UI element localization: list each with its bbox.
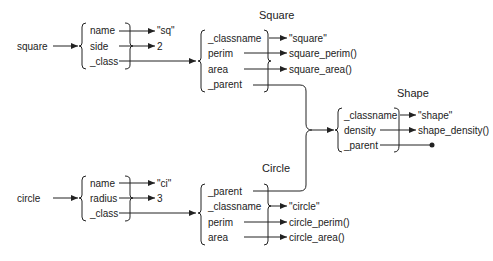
circle-name-value: "ci" <box>157 178 172 189</box>
square-name-value: "sq" <box>157 25 175 36</box>
shape-class-field-classname: _classname <box>343 110 398 121</box>
square-class-right-brace <box>264 30 271 92</box>
square-variable-label: square <box>17 41 48 52</box>
square-class-field-area: area <box>208 64 228 75</box>
null-terminator-dot <box>430 143 435 148</box>
circle-class-field-parent: _parent <box>207 186 242 197</box>
circle-left-brace <box>79 176 86 221</box>
square-class-field-classname: _classname <box>207 33 262 44</box>
square-field-side: side <box>90 41 109 52</box>
shape-class-field-density: density <box>344 125 376 136</box>
square-field-name: name <box>90 25 115 36</box>
circle-class-field-perim: perim <box>208 217 233 228</box>
shape-class-left-brace <box>335 108 342 152</box>
circle-class-title: Circle <box>262 162 290 174</box>
square-class-title: Square <box>259 9 294 21</box>
shape-classname-value: "shape" <box>418 110 453 121</box>
circle-perim-value: circle_perim() <box>289 217 350 228</box>
square-perim-value: square_perim() <box>289 48 357 59</box>
circle-classname-value: "circle" <box>289 201 320 212</box>
circle-variable-label: circle <box>17 193 41 204</box>
square-class-left-brace <box>198 30 205 92</box>
square-object: square name side _class "sq" 2 <box>17 23 196 69</box>
circle-class-field-classname: _classname <box>207 201 262 212</box>
square-area-value: square_area() <box>289 64 352 75</box>
square-side-value: 2 <box>157 41 163 52</box>
shape-density-value: shape_density() <box>418 125 489 136</box>
circle-class-field-area: area <box>208 232 228 243</box>
shape-class-field-parent: _parent <box>343 140 378 151</box>
circle-area-value: circle_area() <box>289 232 345 243</box>
object-class-diagram: square name side _class "sq" 2 Square _c… <box>0 0 493 261</box>
square-classname-value: "square" <box>289 33 327 44</box>
circle-object: circle name radius _class "ci" 3 <box>17 176 196 221</box>
circle-parent-arrow <box>253 130 312 191</box>
shape-class: Shape _classname density _parent "shape"… <box>335 87 489 152</box>
circle-radius-value: 3 <box>157 193 163 204</box>
circle-class: Circle _parent _classname perim area "ci… <box>198 130 350 245</box>
square-left-brace <box>79 23 86 69</box>
circle-class-right-brace <box>264 184 271 245</box>
circle-class-left-brace <box>198 184 205 245</box>
circle-field-name: name <box>90 178 115 189</box>
square-class: Square _classname perim area _parent "sq… <box>198 9 357 130</box>
square-class-field-parent: _parent <box>207 79 242 90</box>
square-field-class: _class <box>89 56 118 67</box>
circle-field-class: _class <box>89 208 118 219</box>
shape-class-title: Shape <box>397 87 429 99</box>
square-class-field-perim: perim <box>208 48 233 59</box>
circle-field-radius: radius <box>90 193 117 204</box>
